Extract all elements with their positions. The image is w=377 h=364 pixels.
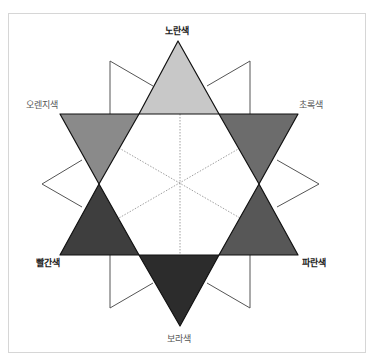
label-purple: 보라색 — [167, 335, 191, 344]
label-orange: 오렌지색 — [26, 101, 58, 110]
label-red: 빨간색 — [36, 259, 60, 268]
flap-left — [42, 160, 82, 207]
triangle-purple — [139, 255, 219, 326]
triangle-yellow — [139, 41, 219, 114]
flap-right — [277, 160, 319, 207]
label-yellow: 노란색 — [165, 27, 189, 36]
guide-diag-2 — [119, 148, 240, 218]
label-green: 초록색 — [299, 101, 323, 110]
hexagram-diagram — [0, 0, 377, 364]
label-blue: 파란색 — [302, 259, 326, 268]
